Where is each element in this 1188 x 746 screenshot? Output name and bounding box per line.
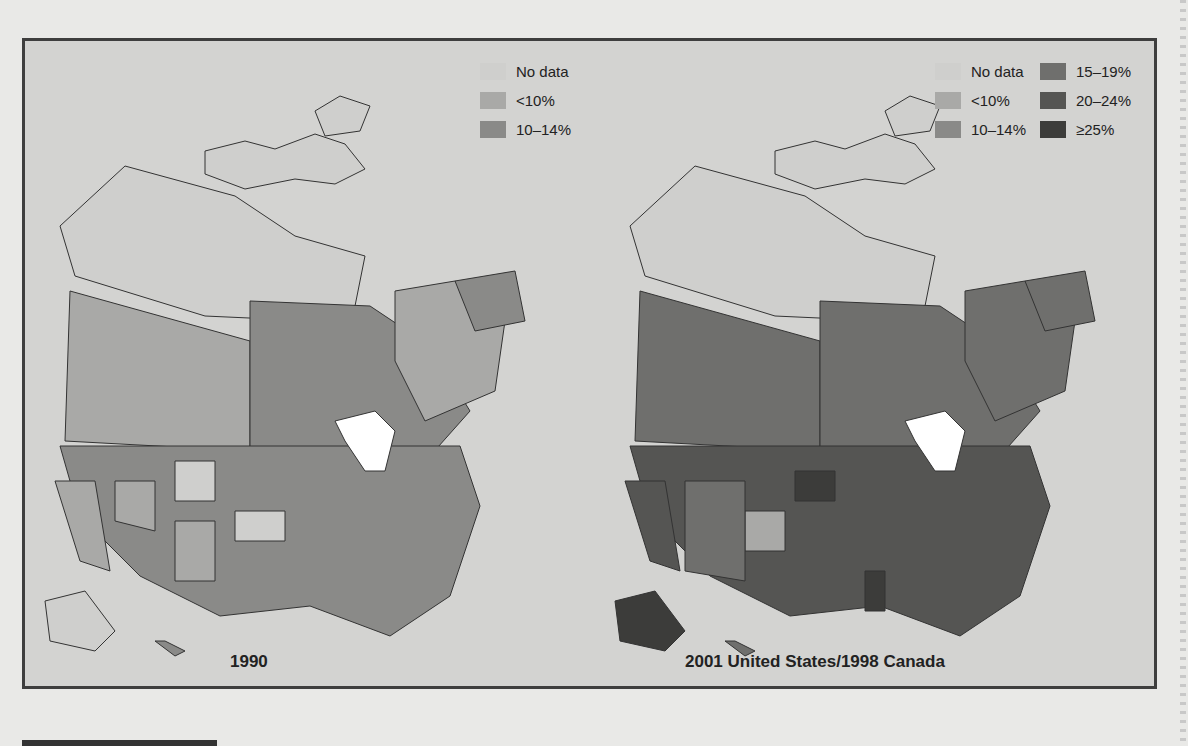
legend-1990: No data <10% 10–14% [480,57,571,144]
legend-item: <10% [480,86,571,115]
figure-frame: No data <10% 10–14% 1990 No data [22,38,1157,689]
swatch-15-19 [1040,63,1066,80]
legend-item: 10–14% [480,115,571,144]
swatch-no-data [480,63,506,80]
map-panel-1990: No data <10% 10–14% 1990 [25,41,585,686]
swatch-10-14 [480,121,506,138]
swatch-10-14 [935,121,961,138]
legend-label: 15–19% [1076,63,1131,80]
map-panel-2001: No data <10% 10–14% 15–19% 20–24% ≥25% 2… [595,41,1155,686]
swatch-lt10 [480,92,506,109]
swatch-lt10 [935,92,961,109]
legend-item: 15–19% [1040,57,1131,86]
legend-item: 10–14% [935,115,1026,144]
legend-label: No data [971,63,1024,80]
legend-label: No data [516,63,569,80]
legend-item: 20–24% [1040,86,1131,115]
legend-item: No data [935,57,1026,86]
legend-item: <10% [935,86,1026,115]
swatch-no-data [935,63,961,80]
caption-1990: 1990 [230,652,268,672]
page-edge-dots [1180,0,1186,743]
caption-2001: 2001 United States/1998 Canada [685,652,945,672]
legend-label: <10% [971,92,1010,109]
legend-item: No data [480,57,571,86]
swatch-20-24 [1040,92,1066,109]
swatch-ge25 [1040,121,1066,138]
legend-2001-col1: No data <10% 10–14% [935,57,1026,144]
legend-label: 10–14% [971,121,1026,138]
legend-label: 20–24% [1076,92,1131,109]
legend-label: 10–14% [516,121,571,138]
legend-label: ≥25% [1076,121,1114,138]
decorative-bar [22,740,217,746]
legend-2001-col2: 15–19% 20–24% ≥25% [1040,57,1131,144]
legend-item: ≥25% [1040,115,1131,144]
legend-label: <10% [516,92,555,109]
